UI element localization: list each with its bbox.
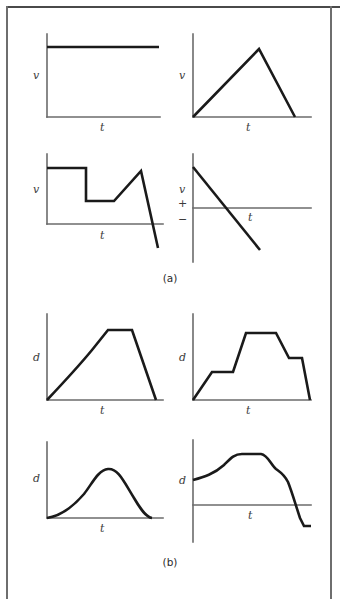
data-curve-b3 xyxy=(47,469,152,518)
graph-b4-svg xyxy=(192,438,312,544)
graph-a2-rise-fall: v t xyxy=(192,32,312,124)
graph-b1-rise-plateau-fall: d t xyxy=(46,312,164,408)
graph-a4-decline-through-zero: v + − t xyxy=(192,152,312,262)
x-axis-label-t: t xyxy=(246,405,250,416)
x-axis-label-t: t xyxy=(100,523,104,534)
graph-a3-svg xyxy=(46,152,164,252)
positive-sign-label: + xyxy=(178,198,187,209)
y-axis-label-d: d xyxy=(179,475,186,486)
graph-b2-svg xyxy=(192,312,312,408)
data-curve-b1 xyxy=(47,330,156,400)
graph-b1-svg xyxy=(46,312,164,408)
negative-sign-label: − xyxy=(178,214,187,225)
x-axis-label-t: t xyxy=(100,405,104,416)
x-axis-label-t: t xyxy=(248,212,252,223)
panel-caption-a: (a) xyxy=(140,273,200,284)
graph-a3-step-ramp-drop: v t xyxy=(46,152,164,244)
graph-a2-svg xyxy=(192,32,312,124)
y-axis-label-v: v xyxy=(33,184,39,195)
x-axis-label-t: t xyxy=(100,122,104,133)
graph-b3-bell-curve: d t xyxy=(46,440,164,526)
graph-b3-svg xyxy=(46,440,164,526)
y-axis-label-d: d xyxy=(33,352,40,363)
graph-a1-constant-velocity: v t xyxy=(46,32,161,124)
y-axis-label-v: v xyxy=(179,70,185,81)
y-axis-label-d: d xyxy=(33,473,40,484)
y-axis-label-v: v xyxy=(179,184,185,195)
graph-b4-plateau-step-drop: d t xyxy=(192,438,312,543)
x-axis-label-t: t xyxy=(246,122,250,133)
graph-a4-svg xyxy=(192,152,312,264)
panel-caption-b: (b) xyxy=(140,557,200,568)
data-curve-a2 xyxy=(193,49,295,117)
x-axis-label-t: t xyxy=(248,510,252,521)
graph-b2-staircase: d t xyxy=(192,312,312,408)
y-axis-label-v: v xyxy=(33,70,39,81)
figure-page: v t v t v t xyxy=(0,0,340,599)
x-axis-label-t: t xyxy=(100,230,104,241)
graph-a1-svg xyxy=(46,32,161,124)
panel-a: v t v t v t xyxy=(0,0,340,295)
data-curve-b2 xyxy=(193,333,310,400)
y-axis-label-d: d xyxy=(179,352,186,363)
panel-b: d t d t d t xyxy=(0,295,340,599)
